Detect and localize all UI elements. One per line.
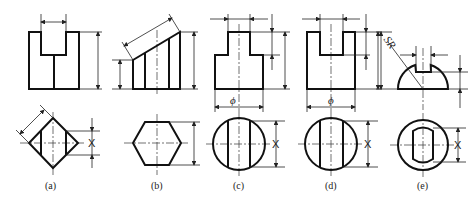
panel-a-top-view: X (16, 105, 100, 175)
panel-e-front-view: SR (376, 32, 468, 110)
panel-c-diameter-symbol: ϕ (230, 94, 236, 106)
panel-a-label: (a) (45, 180, 56, 192)
panel-a-x-symbol: X (88, 137, 96, 149)
panel-c-front-view: ϕ (210, 14, 290, 112)
panel-b-top-view (124, 114, 200, 175)
panel-e-label: (e) (417, 180, 428, 192)
panel-d-front-view: ϕ (302, 14, 382, 112)
panel-a: X (a) (16, 14, 102, 192)
panel-b-front-view (112, 14, 198, 96)
panel-c-x-symbol: X (272, 138, 280, 150)
panel-c-top-view: X (206, 112, 285, 176)
panel-e-x-symbol: X (454, 139, 462, 151)
panel-c-label: (c) (233, 180, 244, 192)
panel-d: ϕ X (d) (298, 14, 382, 192)
panel-d-x-symbol: X (364, 138, 372, 150)
panel-d-label: (d) (325, 180, 337, 192)
drawing-canvas: X (a) (0, 0, 475, 209)
panel-d-top-view: X (298, 112, 378, 176)
panel-b: (b) (112, 14, 200, 192)
panel-e-top-view: X (390, 113, 466, 177)
panel-d-diameter-symbol: ϕ (328, 94, 334, 106)
panel-b-label: (b) (151, 180, 163, 192)
panel-e: SR X (e) (376, 32, 468, 192)
panel-e-sr-symbol: SR (382, 34, 399, 51)
panel-a-front-view (29, 14, 102, 89)
panel-c: ϕ X (c) (206, 14, 290, 192)
